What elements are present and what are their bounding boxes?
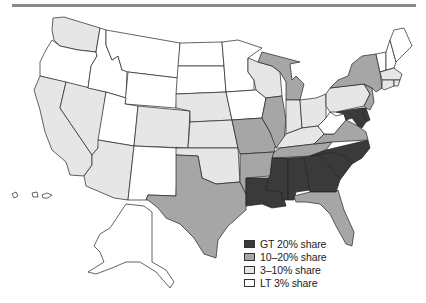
legend-swatch-3-10 <box>244 266 255 274</box>
state-ak[interactable] <box>88 204 174 288</box>
state-ri[interactable] <box>394 80 400 86</box>
legend-item-gt20: GT 20% share <box>244 237 327 250</box>
legend-item-lt3: LT 3% share <box>244 276 327 289</box>
legend-label: GT 20% share <box>260 238 326 250</box>
legend-swatch-10-20 <box>244 253 255 261</box>
state-wy[interactable] <box>125 72 178 108</box>
state-ct[interactable] <box>382 80 394 90</box>
legend-item-3-10: 3–10% share <box>244 263 327 276</box>
state-ks[interactable] <box>188 120 238 148</box>
state-co[interactable] <box>134 106 190 148</box>
legend-label: LT 3% share <box>260 277 317 289</box>
us-map <box>0 0 426 303</box>
legend-swatch-lt3 <box>244 279 255 287</box>
state-hi-3[interactable] <box>42 193 52 198</box>
legend: GT 20% share 10–20% share 3–10% share LT… <box>244 237 327 289</box>
state-sd[interactable] <box>176 66 226 94</box>
state-nm[interactable] <box>128 146 178 200</box>
legend-item-10-20: 10–20% share <box>244 250 327 263</box>
state-nd[interactable] <box>178 42 224 66</box>
legend-label: 10–20% share <box>260 251 327 263</box>
state-hi-1[interactable] <box>12 192 18 198</box>
legend-label: 3–10% share <box>260 264 321 276</box>
state-ia[interactable] <box>226 90 266 120</box>
state-hi-2[interactable] <box>32 192 38 197</box>
legend-swatch-gt20 <box>244 240 255 248</box>
